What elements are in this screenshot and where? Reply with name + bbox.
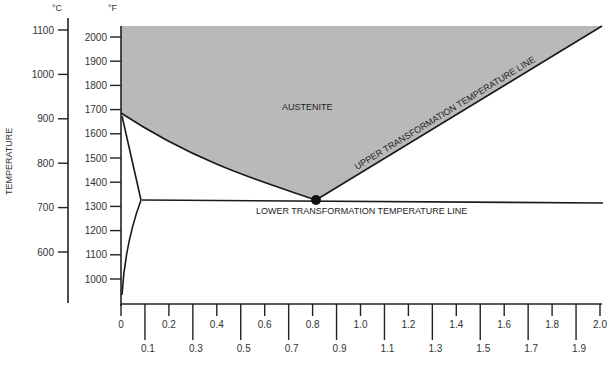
- fahrenheit-tick-label: 1500: [85, 153, 108, 164]
- x-tick-label-upper: 1.8: [545, 319, 559, 330]
- x-tick-label-upper: 0.4: [210, 319, 224, 330]
- x-tick-label-upper: 2.0: [593, 319, 607, 330]
- austenite-region: [121, 26, 602, 200]
- celsius-tick-label: 700: [37, 202, 54, 213]
- ferrite-boundary-upper: [122, 116, 141, 200]
- x-tick-label-upper: 1.2: [401, 319, 415, 330]
- x-tick-label-upper: 1.4: [449, 319, 463, 330]
- lower-transformation-line: [142, 200, 603, 203]
- x-tick-label-lower: 1.1: [380, 343, 394, 354]
- fahrenheit-unit-label: °F: [108, 3, 118, 13]
- eutectoid-point: [311, 195, 321, 205]
- x-tick-label-lower: 0.1: [141, 343, 155, 354]
- x-tick-label-upper: 0.2: [162, 319, 176, 330]
- x-tick-label-lower: 1.5: [476, 343, 490, 354]
- austenite-label: AUSTENITE: [282, 102, 333, 112]
- ferrite-boundary-lower: [122, 200, 141, 295]
- x-tick-label-upper: 1.0: [354, 319, 368, 330]
- x-tick-label-lower: 0.5: [237, 343, 251, 354]
- fahrenheit-tick-label: 1300: [85, 201, 108, 212]
- fahrenheit-tick-label: 1700: [85, 104, 108, 115]
- fahrenheit-tick-label: 1800: [85, 80, 108, 91]
- x-tick-label-upper: 1.6: [497, 319, 511, 330]
- celsius-tick-label: 1100: [32, 25, 54, 36]
- celsius-unit-label: °C: [52, 3, 63, 13]
- celsius-tick-label: 900: [37, 113, 54, 124]
- fahrenheit-tick-label: 2000: [85, 32, 108, 43]
- x-tick-label-lower: 1.7: [524, 343, 538, 354]
- celsius-tick-label: 600: [37, 247, 54, 258]
- celsius-tick-label: 1000: [32, 69, 55, 80]
- celsius-tick-label: 800: [37, 158, 54, 169]
- x-tick-label-lower: 1.3: [428, 343, 442, 354]
- x-tick-label-lower: 0.9: [333, 343, 347, 354]
- x-tick-label-upper: 0.8: [306, 319, 320, 330]
- iron-carbon-diagram: °C °F TEMPERATURE 11001000900800700600 2…: [0, 0, 613, 369]
- fahrenheit-tick-label: 1000: [85, 274, 108, 285]
- x-tick-label-lower: 0.3: [189, 343, 203, 354]
- fahrenheit-tick-label: 1100: [85, 249, 107, 260]
- fahrenheit-tick-label: 1400: [85, 177, 108, 188]
- fahrenheit-tick-label: 1900: [85, 56, 108, 67]
- x-tick-label-upper: 0.6: [258, 319, 272, 330]
- x-tick-label-lower: 0.7: [285, 343, 299, 354]
- fahrenheit-tick-label: 1200: [85, 225, 108, 236]
- lower-line-label: LOWER TRANSFORMATION TEMPERATURE LINE: [256, 206, 467, 216]
- x-tick-label-upper: 0: [118, 319, 124, 330]
- fahrenheit-tick-label: 1600: [85, 128, 108, 139]
- y-axis-title: TEMPERATURE: [4, 128, 14, 195]
- x-tick-label-lower: 1.9: [572, 343, 586, 354]
